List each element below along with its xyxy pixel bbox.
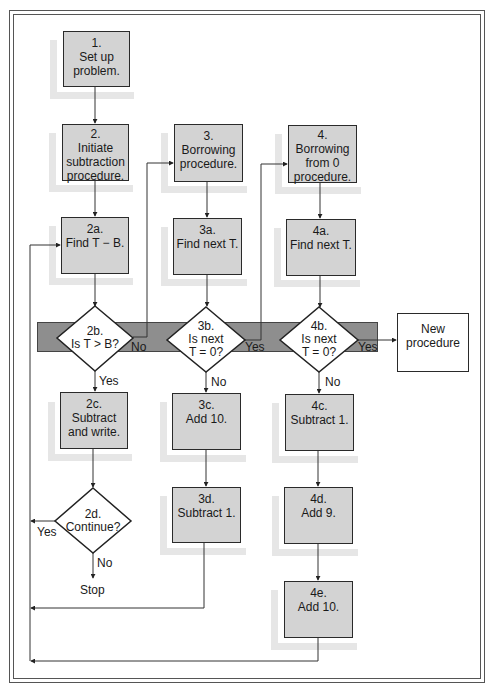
box-number: 3.	[175, 129, 242, 143]
box-text: problem.	[64, 64, 129, 78]
box-text: procedure	[398, 336, 468, 350]
box-2-initiate-subtraction: 2. Initiate subtraction procedure.	[62, 124, 129, 181]
box-number: 3c.	[173, 398, 240, 412]
edge-label-2b-no: No	[131, 341, 146, 354]
box-text: Borrowing	[289, 142, 356, 156]
box-text: from 0	[289, 156, 356, 170]
box-number: 3d.	[173, 492, 240, 506]
box-text: Borrowing	[175, 143, 242, 157]
decision-2d-label: 2d. Continue?	[58, 508, 128, 534]
box-2a-find-t-minus-b: 2a. Find T − B.	[61, 217, 129, 274]
decision-2b-label: 2b. Is T > B?	[60, 325, 130, 351]
edge-label-3b-yes: Yes	[245, 341, 265, 354]
box-text: Add 10.	[285, 600, 352, 614]
decision-text: Continue?	[58, 521, 128, 534]
edge-label-3b-no: No	[211, 376, 226, 389]
box-1-set-up-problem: 1. Set up problem.	[63, 31, 130, 87]
box-3c-add-10: 3c. Add 10.	[172, 393, 241, 450]
decision-text: T = 0?	[171, 346, 241, 359]
box-text: Subtract	[61, 411, 127, 425]
box-3a-find-next-t: 3a. Find next T.	[173, 218, 242, 275]
box-3-borrowing-procedure: 3. Borrowing procedure.	[174, 124, 243, 182]
edge-label-2b-yes: Yes	[99, 375, 119, 388]
decision-text: T = 0?	[284, 346, 354, 359]
box-number: 4c.	[286, 399, 353, 413]
box-number: 2.	[63, 127, 128, 141]
box-text: Add 9.	[285, 506, 352, 520]
box-4d-add-9: 4d. Add 9.	[284, 487, 353, 544]
box-text: Subtract 1.	[286, 413, 353, 427]
stop-label: Stop	[80, 584, 105, 597]
box-text: New	[398, 322, 468, 336]
box-3d-subtract-1: 3d. Subtract 1.	[172, 487, 241, 543]
box-4e-add-10: 4e. Add 10.	[284, 581, 353, 638]
box-text: procedure.	[289, 170, 356, 184]
box-number: 2c.	[61, 397, 127, 411]
box-2c-subtract-and-write: 2c. Subtract and write.	[60, 392, 128, 449]
box-text: Find next T.	[287, 238, 355, 252]
edge-label-2d-no: No	[97, 557, 112, 570]
box-text: procedure.	[175, 157, 242, 171]
decision-3b-label: 3b. Is next T = 0?	[171, 320, 241, 359]
box-4-borrowing-from-0: 4. Borrowing from 0 procedure.	[288, 125, 357, 183]
box-text: Subtract 1.	[173, 506, 240, 520]
box-number: 4e.	[285, 586, 352, 600]
decision-4b-label: 4b. Is next T = 0?	[284, 320, 354, 359]
box-number: 4.	[289, 128, 356, 142]
box-text: Find next T.	[174, 237, 241, 251]
box-text: Find T − B.	[62, 236, 128, 250]
box-number: 4a.	[287, 224, 355, 238]
decision-text: Is T > B?	[60, 338, 130, 351]
box-number: 4d.	[285, 492, 352, 506]
edge-label-4b-no: No	[325, 376, 340, 389]
box-text: and write.	[61, 425, 127, 439]
box-text: subtraction	[63, 155, 128, 169]
box-text: Initiate	[63, 141, 128, 155]
box-number: 1.	[64, 36, 129, 50]
box-new-procedure: New procedure	[397, 313, 469, 372]
box-4a-find-next-t: 4a. Find next T.	[286, 219, 356, 276]
box-number: 2a.	[62, 222, 128, 236]
box-text: Add 10.	[173, 412, 240, 426]
box-text: Set up	[64, 50, 129, 64]
box-text: procedure.	[63, 169, 128, 183]
box-number: 3a.	[174, 223, 241, 237]
edge-label-4b-yes: Yes	[358, 341, 378, 354]
edge-label-2d-yes: Yes	[37, 526, 57, 539]
box-4c-subtract-1: 4c. Subtract 1.	[285, 394, 354, 451]
